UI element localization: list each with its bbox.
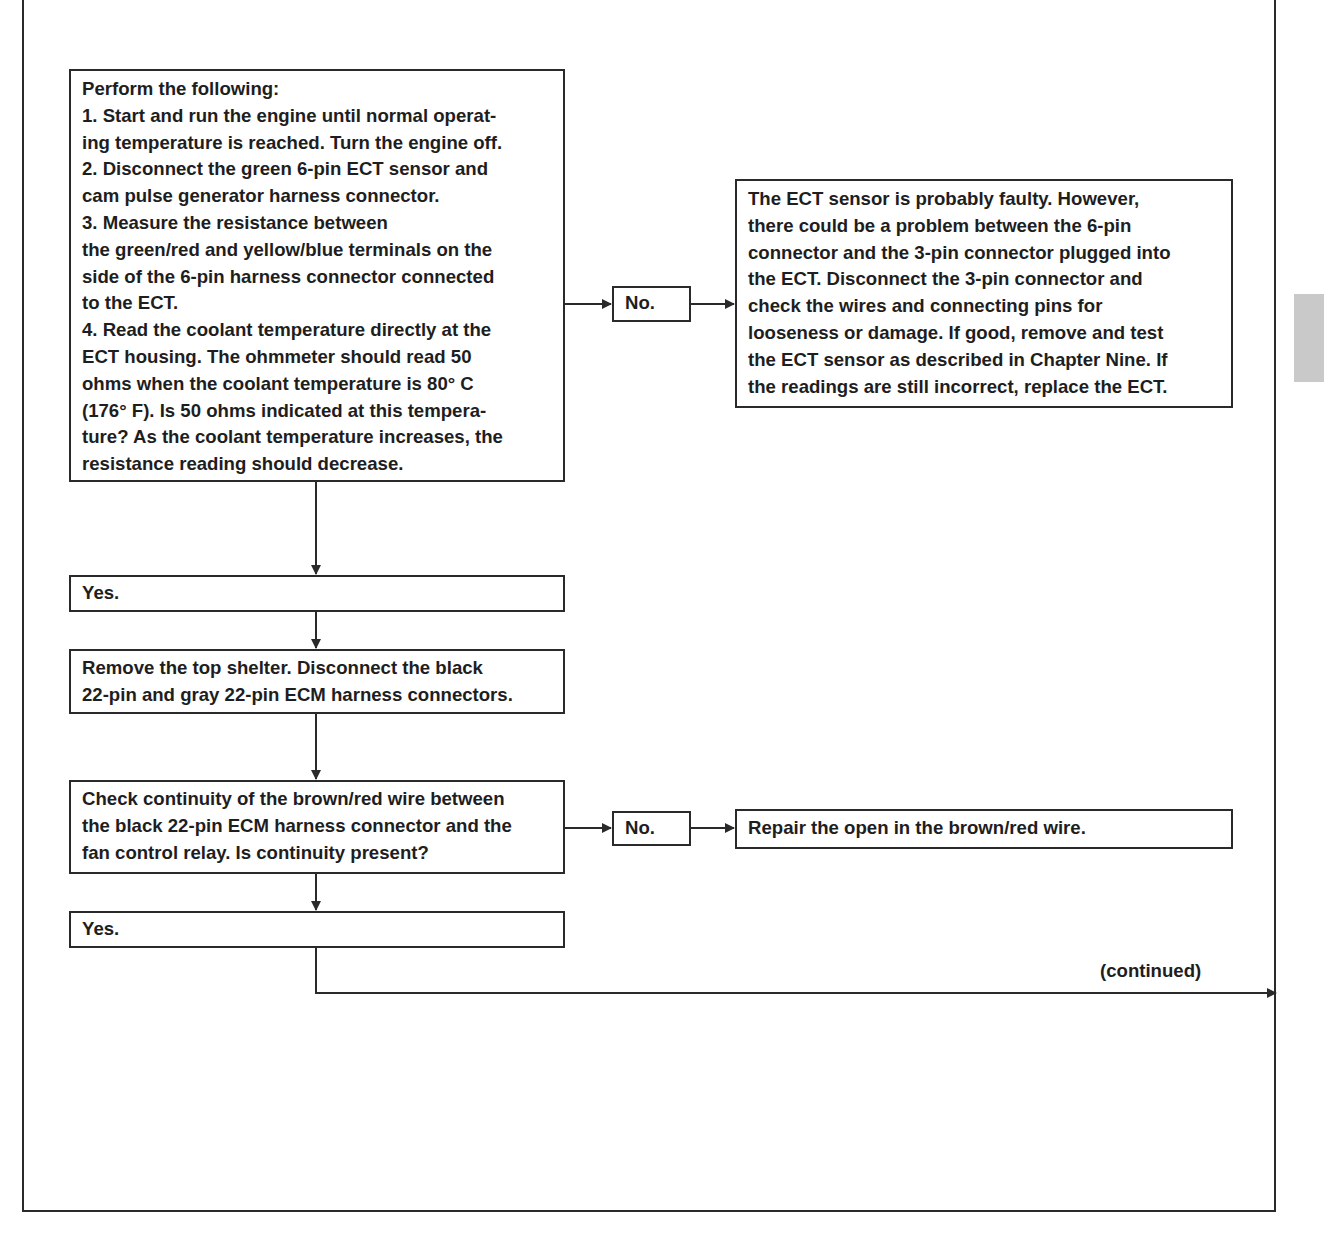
step3-line: the black 22-pin ECM harness connector a… xyxy=(82,813,552,840)
step1-line: (176° F). Is 50 ohms indicated at this t… xyxy=(82,398,552,425)
step1-yes-box: Yes. xyxy=(69,575,565,612)
step1-line: ohms when the coolant temperature is 80°… xyxy=(82,371,552,398)
step1-line: ECT housing. The ohmmeter should read 50 xyxy=(82,344,552,371)
step3-no-result-label: Repair the open in the brown/red wire. xyxy=(748,817,1086,838)
step1-line: cam pulse generator harness connector. xyxy=(82,183,552,210)
result-line: the ECT. Disconnect the 3-pin connector … xyxy=(748,266,1220,293)
step1-line: 3. Measure the resistance between xyxy=(82,210,552,237)
step3-no-result-box: Repair the open in the brown/red wire. xyxy=(735,809,1233,849)
result-line: The ECT sensor is probably faulty. Howev… xyxy=(748,186,1220,213)
step3-no-label: No. xyxy=(625,817,655,838)
result-line: check the wires and connecting pins for xyxy=(748,293,1220,320)
step3-yes-label: Yes. xyxy=(82,918,119,939)
step1-line: 2. Disconnect the green 6-pin ECT sensor… xyxy=(82,156,552,183)
step2-line: 22-pin and gray 22-pin ECM harness conne… xyxy=(82,682,552,709)
step1-line: to the ECT. xyxy=(82,290,552,317)
step1-heading: Perform the following: xyxy=(82,76,552,103)
step1-line: 1. Start and run the engine until normal… xyxy=(82,103,552,130)
step3-no-box: No. xyxy=(612,811,691,846)
step1-yes-label: Yes. xyxy=(82,582,119,603)
result-line: connector and the 3-pin connector plugge… xyxy=(748,240,1220,267)
step2-line: Remove the top shelter. Disconnect the b… xyxy=(82,655,552,682)
continued-label: (continued) xyxy=(1100,960,1201,982)
step1-box: Perform the following: 1. Start and run … xyxy=(69,69,565,482)
step3-line: Check continuity of the brown/red wire b… xyxy=(82,786,552,813)
step1-no-box: No. xyxy=(612,286,691,322)
result-line: there could be a problem between the 6-p… xyxy=(748,213,1220,240)
step3-yes-box: Yes. xyxy=(69,911,565,948)
result-line: the ECT sensor as described in Chapter N… xyxy=(748,347,1220,374)
result-line: looseness or damage. If good, remove and… xyxy=(748,320,1220,347)
step1-no-label: No. xyxy=(625,292,655,313)
step3-line: fan control relay. Is continuity present… xyxy=(82,840,552,867)
step3-box: Check continuity of the brown/red wire b… xyxy=(69,780,565,874)
result-line: the readings are still incorrect, replac… xyxy=(748,374,1220,401)
step2-box: Remove the top shelter. Disconnect the b… xyxy=(69,649,565,714)
step1-line: resistance reading should decrease. xyxy=(82,451,552,478)
step1-line: the green/red and yellow/blue terminals … xyxy=(82,237,552,264)
step1-no-result-box: The ECT sensor is probably faulty. Howev… xyxy=(735,179,1233,408)
step1-line: ture? As the coolant temperature increas… xyxy=(82,424,552,451)
step1-line: side of the 6-pin harness connector conn… xyxy=(82,264,552,291)
step1-line: 4. Read the coolant temperature directly… xyxy=(82,317,552,344)
step1-line: ing temperature is reached. Turn the eng… xyxy=(82,130,552,157)
